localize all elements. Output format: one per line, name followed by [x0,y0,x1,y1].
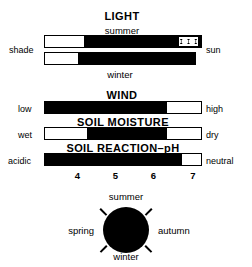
ecological-indicator-figure: LIGHT summer shade sun winter WIND low h… [0,0,252,267]
dial-disc [103,207,149,253]
season-summer-label: summer [96,192,156,202]
soil-reaction-neutral-label: neutral [206,157,234,166]
wind-bar[interactable] [44,101,202,114]
dial-tick-ne [145,208,152,215]
light-title: LIGHT [44,11,200,22]
hourglass-icon [194,39,197,45]
wind-title: WIND [44,90,200,101]
light-winter-sublabel: winter [44,70,196,80]
soil-moisture-wet-label: wet [18,131,32,140]
dial-tick-nw [100,208,107,215]
light-summer-bar[interactable] [44,35,202,48]
soil-reaction-bar-fill [45,154,182,165]
soil-moisture-bar-fill [87,128,167,139]
season-winter-label: winter [96,252,156,262]
hourglass-icon [180,39,183,45]
soil-reaction-bar[interactable] [44,153,202,166]
season-spring-label: spring [62,226,94,236]
soil-moisture-bar[interactable] [44,127,202,140]
light-winter-bar[interactable] [44,52,196,65]
light-shade-label: shade [9,46,34,55]
light-winter-bar-fill [78,53,195,64]
wind-bar-fill [45,102,167,113]
season-autumn-label: autumn [158,226,190,236]
soil-reaction-acidic-label: acidic [8,157,31,166]
light-sun-label: sun [206,46,221,55]
wind-low-label: low [18,105,32,114]
soil-moisture-dry-label: dry [206,131,219,140]
light-summer-bar-marker [179,37,198,46]
wind-high-label: high [206,105,223,114]
ph-tick-7: 7 [37,171,213,181]
hourglass-icon [187,39,190,45]
